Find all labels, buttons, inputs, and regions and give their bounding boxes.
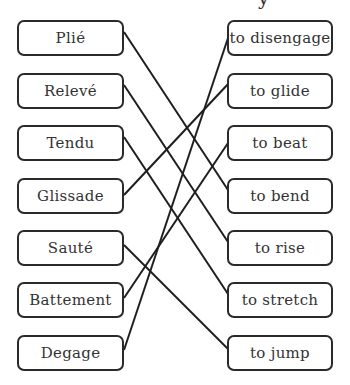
meaning-label: to jump [250,344,310,362]
term-plie[interactable]: Plié [17,20,124,56]
meaning-label: to stretch [242,291,319,309]
meaning-label: to disengage [229,29,330,47]
line-releve-rise [124,85,228,242]
term-battement[interactable]: Battement [17,282,124,318]
line-tendu-stretch [124,137,228,294]
meaning-rise[interactable]: to rise [227,230,333,266]
line-glissade-glide [124,83,229,195]
term-label: Relevé [44,82,97,100]
meaning-jump[interactable]: to jump [227,335,333,371]
meaning-beat[interactable]: to beat [227,125,333,161]
term-label: Degage [41,344,101,362]
term-label: Tendu [46,134,94,152]
line-degage-disengage [124,38,228,350]
term-degage[interactable]: Degage [17,335,124,371]
meaning-label: to rise [255,239,305,257]
term-label: Battement [29,291,111,309]
meaning-label: to glide [250,82,310,100]
term-saute[interactable]: Sauté [17,230,124,266]
line-saute-jump [124,245,229,350]
meaning-bend[interactable]: to bend [227,178,333,214]
term-label: Glissade [37,187,104,205]
meaning-stretch[interactable]: to stretch [227,282,333,318]
term-label: Sauté [48,239,93,257]
meaning-disengage[interactable]: to disengage [227,20,333,56]
term-releve[interactable]: Relevé [17,73,124,109]
term-glissade[interactable]: Glissade [17,178,124,214]
term-label: Plié [56,29,86,47]
meaning-label: to bend [250,187,310,205]
meaning-glide[interactable]: to glide [227,73,333,109]
meaning-label: to beat [252,134,307,152]
term-tendu[interactable]: Tendu [17,125,124,161]
line-battement-beat [124,143,228,298]
